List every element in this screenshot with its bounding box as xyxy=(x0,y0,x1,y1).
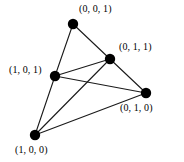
vertex-label: (0, 1, 1) xyxy=(119,41,152,52)
graph-canvas xyxy=(0,0,184,162)
graph-edge xyxy=(55,76,146,93)
vertex-label: (1, 0, 1) xyxy=(9,64,42,75)
graph-edge xyxy=(35,93,146,135)
graph-edge xyxy=(110,59,146,93)
graph-node xyxy=(30,130,40,140)
graph-figure: (0, 0, 1)(0, 1, 1)(1, 0, 1)(0, 1, 0)(1, … xyxy=(0,0,184,162)
graph-edge xyxy=(73,24,110,59)
graph-edge xyxy=(55,24,73,76)
graph-node xyxy=(105,54,115,64)
graph-node xyxy=(50,71,60,81)
graph-node xyxy=(68,19,78,29)
graph-edge xyxy=(35,76,55,135)
graph-node xyxy=(141,88,151,98)
vertex-label: (1, 0, 0) xyxy=(15,144,48,155)
vertex-label: (0, 0, 1) xyxy=(79,3,112,14)
vertex-label: (0, 1, 0) xyxy=(120,102,153,113)
